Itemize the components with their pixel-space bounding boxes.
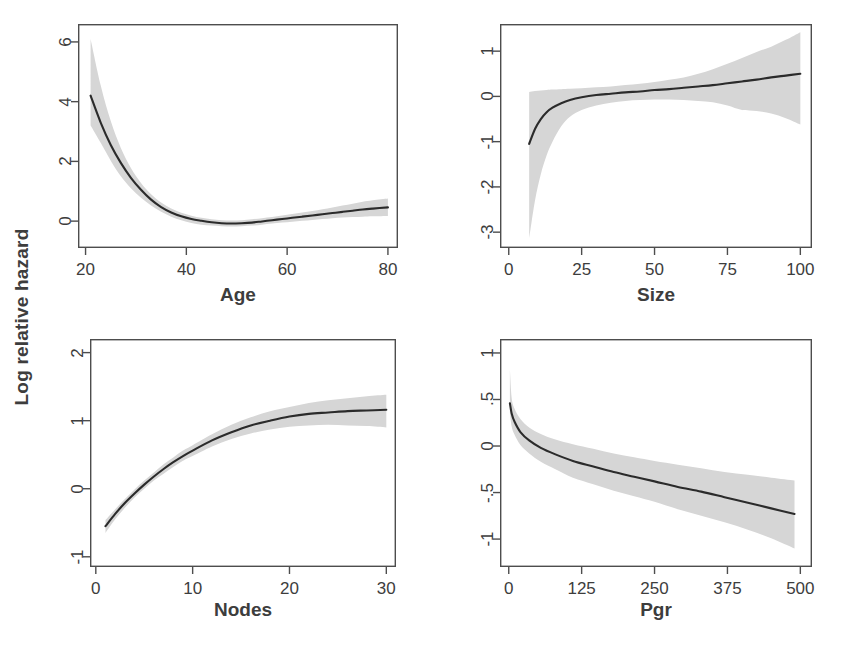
x-tick-label: 375 <box>713 579 741 599</box>
y-tick-label: -1 <box>478 532 498 547</box>
x-tick-label: 0 <box>504 260 513 280</box>
x-tick-label: 500 <box>786 579 814 599</box>
confidence-band <box>105 395 386 533</box>
x-tick-label: 80 <box>378 260 397 280</box>
y-tick-label: 0 <box>68 484 88 493</box>
y-tick-label: -1 <box>68 549 88 564</box>
x-tick-label: 20 <box>76 260 95 280</box>
x-tick-label: 60 <box>278 260 297 280</box>
age-axis-title: Age <box>78 284 398 306</box>
nodes-panel <box>56 339 396 589</box>
figure-canvas: Log relative hazard Age Size Nodes Pgr 2… <box>0 0 842 651</box>
x-tick-label: 30 <box>377 579 396 599</box>
x-tick-label: 40 <box>177 260 196 280</box>
plot-frame <box>91 340 396 567</box>
y-tick-label: -3 <box>478 225 498 240</box>
size-panel <box>466 24 812 270</box>
x-tick-label: 20 <box>280 579 299 599</box>
y-tick-label: 0 <box>478 441 498 450</box>
y-tick-label: 2 <box>68 348 88 357</box>
y-tick-label: -1 <box>478 134 498 149</box>
y-tick-label: 6 <box>56 37 76 46</box>
y-tick-label: -2 <box>478 179 498 194</box>
x-tick-label: 10 <box>183 579 202 599</box>
y-tick-label: 1 <box>478 348 498 357</box>
x-tick-label: 100 <box>786 260 814 280</box>
pgr-axis-title: Pgr <box>500 599 812 621</box>
x-tick-label: 75 <box>718 260 737 280</box>
y-tick-label: 0 <box>478 92 498 101</box>
x-tick-label: 0 <box>91 579 100 599</box>
y-tick-label: .5 <box>478 392 498 406</box>
x-tick-label: 0 <box>504 579 513 599</box>
x-tick-label: 50 <box>645 260 664 280</box>
size-axis-title: Size <box>500 284 812 306</box>
fitted-curve <box>105 410 386 526</box>
x-tick-label: 250 <box>640 579 668 599</box>
size-plot-area <box>466 24 812 270</box>
y-tick-label: 0 <box>56 216 76 225</box>
y-tick-label: 1 <box>478 46 498 55</box>
y-tick-label: -.5 <box>478 483 498 503</box>
fitted-curve <box>91 96 388 224</box>
pgr-panel <box>466 339 812 589</box>
x-tick-label: 125 <box>567 579 595 599</box>
pgr-plot-area <box>466 339 812 589</box>
confidence-band <box>91 39 388 227</box>
x-tick-label: 25 <box>572 260 591 280</box>
confidence-band <box>529 32 800 239</box>
y-tick-label: 4 <box>56 97 76 106</box>
nodes-axis-title: Nodes <box>90 599 396 621</box>
y-tick-label: 2 <box>56 157 76 166</box>
shared-y-axis-label: Log relative hazard <box>11 217 33 417</box>
nodes-plot-area <box>56 339 396 589</box>
y-tick-label: 1 <box>68 416 88 425</box>
confidence-band <box>510 370 795 549</box>
age-panel <box>44 24 398 270</box>
age-plot-area <box>44 24 398 270</box>
